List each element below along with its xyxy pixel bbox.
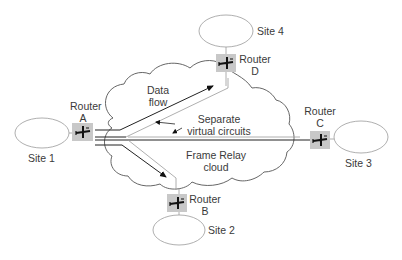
site-4-label: Site 4 bbox=[257, 25, 284, 37]
site-1-label: Site 1 bbox=[28, 152, 55, 164]
data-flow-label: Data flow bbox=[143, 84, 173, 108]
frame-relay-cloud-label: Frame Relay cloud bbox=[186, 149, 246, 173]
frame-relay-diagram: Router A Router B Router C Router D Site… bbox=[0, 0, 402, 260]
router-a-icon bbox=[72, 123, 93, 141]
site-2-ellipse bbox=[153, 215, 205, 245]
router-b-label: Router B bbox=[188, 193, 222, 217]
site-3-ellipse bbox=[334, 121, 388, 153]
site-1-ellipse bbox=[15, 118, 69, 148]
router-d-icon bbox=[216, 54, 236, 72]
router-a-label: Router A bbox=[70, 100, 96, 124]
router-c-icon bbox=[310, 131, 330, 149]
site-4-ellipse bbox=[199, 15, 253, 47]
router-b-icon bbox=[167, 194, 187, 212]
site-3-label: Site 3 bbox=[345, 157, 372, 169]
router-d-label: Router D bbox=[238, 53, 272, 77]
virtual-circuits-label: Separate virtual circuits bbox=[184, 113, 254, 137]
site-2-label: Site 2 bbox=[208, 224, 235, 236]
router-c-label: Router C bbox=[303, 105, 337, 129]
